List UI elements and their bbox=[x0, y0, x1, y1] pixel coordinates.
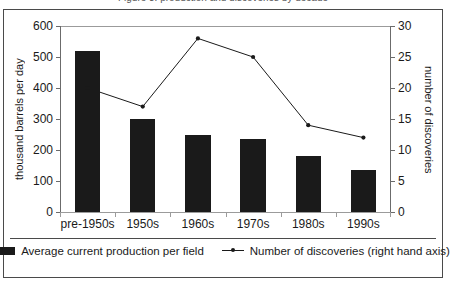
left-tick-label: 500 bbox=[33, 50, 53, 64]
line-marker-icon bbox=[222, 247, 244, 255]
right-tick-label: 30 bbox=[398, 19, 411, 33]
right-tick-label: 10 bbox=[398, 143, 411, 157]
plot-area: 0100200300400500600 051015202530 bbox=[60, 26, 391, 213]
x-label-1960s: 1960s bbox=[182, 217, 215, 231]
right-tick-label: 5 bbox=[398, 174, 405, 188]
x-axis-category-labels: pre-1950s1950s1960s1970s1980s1990s bbox=[60, 217, 391, 235]
right-tick bbox=[391, 212, 395, 213]
caption-fragment-text: Figure 3: production and discoveries by … bbox=[118, 0, 328, 3]
x-label-1990s: 1990s bbox=[347, 217, 380, 231]
line-point-1970s bbox=[251, 55, 255, 59]
right-tick bbox=[391, 181, 395, 182]
left-tick-label: 400 bbox=[33, 81, 53, 95]
x-label-pre-1950s: pre-1950s bbox=[61, 217, 115, 231]
bar-swatch-icon bbox=[0, 247, 15, 255]
left-tick-label: 0 bbox=[46, 205, 53, 219]
right-tick bbox=[391, 88, 395, 89]
right-tick-label: 20 bbox=[398, 81, 411, 95]
legend-label-production: Average current production per field bbox=[21, 245, 204, 257]
legend-item-discoveries: Number of discoveries (right hand axis) bbox=[222, 245, 450, 257]
discoveries-line bbox=[88, 38, 364, 137]
line-series bbox=[60, 26, 391, 213]
line-point-pre-1950s bbox=[85, 86, 89, 90]
right-tick bbox=[391, 57, 395, 58]
line-point-1980s bbox=[306, 123, 310, 127]
x-label-1970s: 1970s bbox=[237, 217, 270, 231]
chart-frame: thousand barrels per day number of disco… bbox=[3, 9, 443, 278]
right-tick bbox=[391, 26, 395, 27]
line-point-1950s bbox=[141, 105, 145, 109]
right-tick-label: 25 bbox=[398, 50, 411, 64]
right-tick-label: 15 bbox=[398, 112, 411, 126]
line-point-1960s bbox=[196, 36, 200, 40]
legend-item-production: Average current production per field bbox=[0, 245, 204, 257]
x-label-1980s: 1980s bbox=[292, 217, 325, 231]
legend-label-discoveries: Number of discoveries (right hand axis) bbox=[250, 245, 450, 257]
discoveries-markers bbox=[85, 36, 365, 139]
right-tick bbox=[391, 119, 395, 120]
left-tick-label: 600 bbox=[33, 19, 53, 33]
left-tick-label: 100 bbox=[33, 174, 53, 188]
right-axis-title: number of discoveries bbox=[422, 26, 436, 213]
left-tick-label: 200 bbox=[33, 143, 53, 157]
clipped-caption-fragment: Figure 3: production and discoveries by … bbox=[0, 0, 446, 9]
right-tick bbox=[391, 150, 395, 151]
right-tick-label: 0 bbox=[398, 205, 405, 219]
left-axis-title: thousand barrels per day bbox=[12, 26, 26, 213]
left-tick-label: 300 bbox=[33, 112, 53, 126]
line-point-1990s bbox=[361, 136, 365, 140]
x-label-1950s: 1950s bbox=[126, 217, 159, 231]
chart-legend: Average current production per field Num… bbox=[10, 239, 436, 262]
